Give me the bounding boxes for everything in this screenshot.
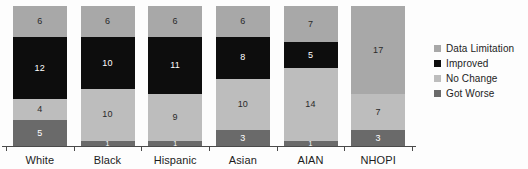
legend-label: No Change	[446, 73, 498, 84]
segment-value-label: 7	[308, 20, 313, 29]
segment-value-label: 11	[170, 61, 180, 70]
stacked-bar-chart: 612456101016119168103751411773 WhiteBlac…	[0, 0, 528, 169]
bar-slot-nhopi: 1773	[344, 0, 412, 146]
legend-label: Got Worse	[446, 88, 495, 99]
bar-segment[interactable]: 6	[216, 6, 270, 37]
bar-stack[interactable]: 61245	[13, 6, 67, 146]
segment-value-label: 4	[37, 105, 42, 114]
bar-segment[interactable]: 6	[81, 6, 135, 37]
segment-value-label: 10	[102, 59, 112, 68]
bar-segment[interactable]: 3	[216, 130, 270, 146]
legend-item[interactable]: Improved	[434, 56, 528, 70]
segment-value-label: 8	[240, 53, 245, 62]
x-axis-label-text: Hispanic	[154, 154, 197, 166]
bar-segment[interactable]: 9	[148, 94, 202, 141]
segment-value-label: 3	[240, 134, 245, 143]
legend-swatch-icon	[434, 60, 441, 67]
bar-segment[interactable]: 6	[13, 6, 67, 37]
segment-value-label: 10	[238, 100, 248, 109]
segment-value-label: 6	[173, 17, 178, 26]
segment-value-label: 5	[308, 51, 313, 60]
bar-segment[interactable]: 4	[13, 99, 67, 120]
bar-segment[interactable]: 5	[284, 42, 338, 68]
segment-value-label: 14	[305, 100, 315, 109]
segment-value-label: 7	[376, 108, 381, 117]
x-axis-label-text: White	[26, 154, 55, 166]
bar-segment[interactable]: 17	[351, 6, 405, 94]
bar-segment[interactable]: 12	[13, 37, 67, 99]
bar-segment[interactable]: 7	[351, 94, 405, 130]
x-axis-label-nhopi: NHOPI	[344, 150, 412, 169]
bars-container: 612456101016119168103751411773	[0, 0, 418, 146]
legend-swatch-icon	[434, 90, 441, 97]
x-axis-label-hispanic: Hispanic	[141, 150, 209, 169]
bar-segment[interactable]: 10	[81, 37, 135, 89]
segment-value-label: 12	[35, 64, 45, 73]
bar-slot-white: 61245	[6, 0, 74, 146]
bar-segment[interactable]: 14	[284, 68, 338, 141]
legend-swatch-icon	[434, 45, 441, 52]
x-axis-label-text: Black	[94, 154, 121, 166]
bar-segment[interactable]: 8	[216, 37, 270, 78]
legend-item[interactable]: Data Limitation	[434, 41, 528, 55]
segment-value-label: 10	[102, 110, 112, 119]
segment-value-label: 5	[37, 129, 42, 138]
bar-segment[interactable]: 10	[81, 89, 135, 141]
segment-value-label: 17	[373, 46, 383, 55]
bar-segment[interactable]: 10	[216, 79, 270, 131]
x-axis-label-text: AIAN	[297, 154, 323, 166]
x-axis-label-text: NHOPI	[361, 154, 396, 166]
bar-stack[interactable]: 1773	[351, 6, 405, 146]
bar-segment[interactable]: 3	[351, 130, 405, 146]
bar-slot-hispanic: 61191	[141, 0, 209, 146]
bar-stack[interactable]: 75141	[284, 6, 338, 146]
legend-item[interactable]: Got Worse	[434, 86, 528, 100]
bar-segment[interactable]: 5	[13, 120, 67, 146]
bar-segment[interactable]: 7	[284, 6, 338, 42]
bar-slot-black: 610101	[74, 0, 142, 146]
bar-slot-asian: 68103	[209, 0, 277, 146]
bar-slot-aian: 75141	[277, 0, 345, 146]
legend-label: Data Limitation	[446, 43, 514, 54]
chart-legend: Data LimitationImprovedNo ChangeGot Wors…	[434, 41, 528, 101]
segment-value-label: 6	[37, 17, 42, 26]
bar-stack[interactable]: 61191	[148, 6, 202, 146]
plot-area: 612456101016119168103751411773 WhiteBlac…	[0, 0, 418, 169]
segment-value-label: 6	[240, 17, 245, 26]
x-axis-label-asian: Asian	[209, 150, 277, 169]
bar-segment[interactable]: 6	[148, 6, 202, 37]
x-axis-label-black: Black	[74, 150, 142, 169]
segment-value-label: 6	[105, 17, 110, 26]
segment-value-label: 3	[376, 134, 381, 143]
legend-item[interactable]: No Change	[434, 71, 528, 85]
x-axis-labels: WhiteBlackHispanicAsianAIANNHOPI	[0, 150, 418, 169]
bar-stack[interactable]: 610101	[81, 6, 135, 146]
legend-label: Improved	[446, 58, 489, 69]
legend-swatch-icon	[434, 75, 441, 82]
x-axis-label-aian: AIAN	[277, 150, 345, 169]
bar-segment[interactable]: 11	[148, 37, 202, 94]
segment-value-label: 9	[173, 113, 178, 122]
bar-stack[interactable]: 68103	[216, 6, 270, 146]
x-axis-label-white: White	[6, 150, 74, 169]
x-axis-label-text: Asian	[229, 154, 257, 166]
